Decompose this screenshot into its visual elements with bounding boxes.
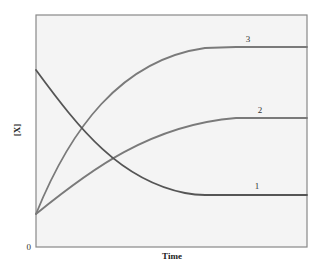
curve-3-label: 3 — [246, 34, 251, 44]
chart: 3 2 1 0 Time [X] — [0, 0, 321, 273]
x-axis-label: Time — [162, 251, 182, 261]
curve-1-label: 1 — [255, 181, 260, 191]
curve-2-label: 2 — [258, 105, 263, 115]
y-axis-label: [X] — [12, 124, 22, 137]
y-origin-tick: 0 — [27, 242, 32, 252]
